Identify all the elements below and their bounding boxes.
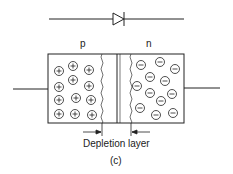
depletion-layer-label: Depletion layer [83, 138, 150, 149]
depletion-boundary-right [130, 54, 132, 123]
figure-caption: (c) [110, 155, 122, 166]
depletion-width-arrows [83, 123, 150, 136]
n-region-label: n [146, 38, 152, 49]
p-region-label: p [80, 38, 86, 49]
p-region-charges [55, 62, 97, 120]
depletion-boundary-left [101, 54, 103, 123]
n-region-charges [133, 58, 180, 120]
diode-symbol [49, 12, 184, 26]
